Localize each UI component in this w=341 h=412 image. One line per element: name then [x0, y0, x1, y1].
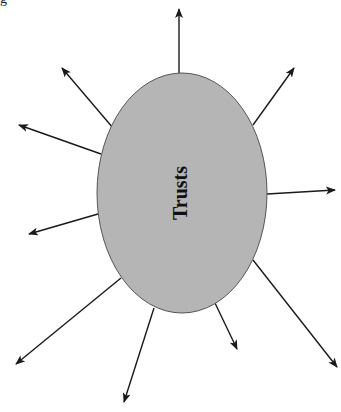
- arrow-left: [29, 214, 98, 234]
- arrow-right: [267, 190, 335, 194]
- arrow-bottom-left: [124, 308, 154, 402]
- arrow-upper-right: [253, 68, 294, 125]
- central-label: Trusts: [169, 166, 191, 220]
- arrow-lower-short: [215, 303, 237, 349]
- arrow-top-left: [62, 68, 113, 128]
- arrow-lower-right: [253, 260, 337, 367]
- arrow-lower-left: [16, 278, 121, 364]
- arrow-upper-left: [19, 125, 101, 154]
- radial-diagram: Trusts: [0, 0, 341, 412]
